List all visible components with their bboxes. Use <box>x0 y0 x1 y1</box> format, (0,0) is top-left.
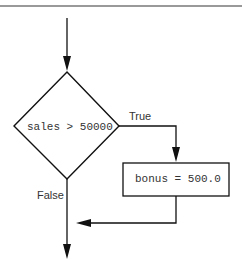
true-label: True <box>129 110 151 122</box>
process-statement: bonus = 500.0 <box>135 173 221 185</box>
decision-condition: sales > 50000 <box>27 121 113 133</box>
entry-arrow <box>63 18 71 71</box>
merge-arrow <box>76 196 176 227</box>
flowchart-canvas <box>0 0 242 270</box>
false-branch-arrow <box>63 179 71 259</box>
true-branch-arrow <box>119 126 180 162</box>
false-label: False <box>37 189 64 201</box>
